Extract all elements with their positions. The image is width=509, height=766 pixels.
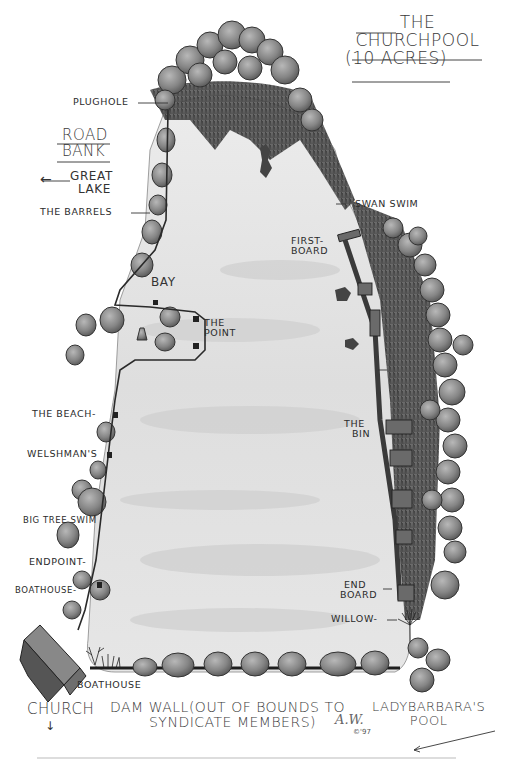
map-title: THE CHURCHPOOL (10 ACRES) — [345, 14, 490, 68]
artist-signature: A.W. — [335, 712, 364, 727]
label-church: CHURCH — [27, 702, 94, 718]
label-willow: WILLOW- — [331, 614, 378, 624]
label-dam-wall: DAM WALL(OUT OF BOUNDS TO SYNDICATE MEMB… — [110, 700, 345, 729]
label-first-board: FIRST- BOARD — [291, 236, 328, 257]
label-the-bin: THE BIN — [344, 419, 370, 440]
church-building — [20, 625, 86, 702]
great-lake-label: GREAT LAKE — [70, 170, 113, 196]
label-welshmans: WELSHMAN'S — [27, 449, 97, 459]
title-line3: (10 ACRES) — [345, 50, 490, 68]
label-the-point: THE POINT — [204, 318, 236, 339]
church-arrow-icon: ↓ — [45, 720, 56, 733]
label-plughole: PLUGHOLE — [73, 97, 129, 107]
label-the-barrels: THE BARRELS — [40, 207, 112, 217]
great-lake-arrow-icon: ← — [40, 172, 52, 187]
label-the-beach: THE BEACH- — [32, 409, 96, 419]
copyright-year: ©'97 — [353, 728, 371, 736]
label-big-tree-swim: BIG TREE SWIM — [23, 516, 97, 525]
label-boathouse: BOATHOUSE — [77, 680, 141, 690]
label-bay: BAY — [151, 276, 176, 289]
label-endpoint: ENDPOINT- — [29, 557, 86, 567]
road-bank-label: ROAD BANK — [62, 128, 108, 160]
label-end-board: END BOARD — [340, 580, 377, 601]
label-boathouse-swim: BOATHOUSE- — [15, 586, 77, 595]
lake-map-illustration — [0, 0, 509, 766]
title-line2: CHURCHPOOL — [345, 32, 490, 50]
label-lady-barbaras-pool: LADYBARBARA'S POOL — [372, 700, 485, 727]
label-swan-swim: SWAN SWIM — [355, 199, 418, 209]
